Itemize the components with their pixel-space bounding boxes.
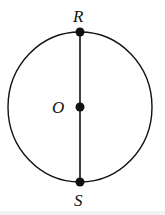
- point-s: [76, 178, 85, 187]
- label-o: O: [52, 98, 64, 117]
- circle-diagram: R O S: [0, 0, 165, 215]
- label-r: R: [72, 7, 84, 26]
- bottom-band: [0, 211, 165, 215]
- point-o: [76, 103, 85, 112]
- label-s: S: [74, 191, 83, 210]
- point-r: [76, 28, 85, 37]
